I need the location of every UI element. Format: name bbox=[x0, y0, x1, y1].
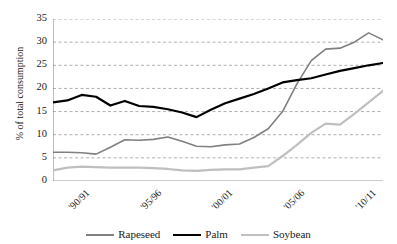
series-line-rapeseed bbox=[53, 33, 383, 154]
plot-svg bbox=[53, 19, 383, 181]
legend-label: Palm bbox=[205, 229, 228, 240]
legend-label: Rapeseed bbox=[118, 229, 160, 240]
y-tick-label: 0 bbox=[23, 174, 47, 185]
y-tick-label: 10 bbox=[23, 128, 47, 139]
y-tick-label: 25 bbox=[23, 58, 47, 69]
series-line-palm bbox=[53, 63, 383, 117]
x-tick-label: '05/06 bbox=[281, 187, 306, 212]
y-tick-label: 30 bbox=[23, 35, 47, 46]
line-chart: % of total consumption 05101520253035 '9… bbox=[0, 0, 397, 244]
plot-area bbox=[53, 19, 383, 181]
legend-item-rapeseed: Rapeseed bbox=[86, 229, 160, 240]
x-tick-label: '90/91 bbox=[66, 187, 91, 212]
x-tick-label: '00/01 bbox=[210, 187, 235, 212]
y-tick-label: 15 bbox=[23, 105, 47, 116]
legend-line-icon bbox=[173, 234, 201, 236]
y-tick-label: 5 bbox=[23, 151, 47, 162]
y-tick-label: 20 bbox=[23, 81, 47, 92]
legend-line-icon bbox=[241, 234, 269, 236]
legend-line-icon bbox=[86, 234, 114, 236]
legend-label: Soybean bbox=[273, 229, 311, 240]
y-tick-label: 35 bbox=[23, 12, 47, 23]
legend-item-soybean: Soybean bbox=[241, 229, 311, 240]
chart-legend: Rapeseed Palm Soybean bbox=[0, 229, 397, 240]
legend-item-palm: Palm bbox=[173, 229, 228, 240]
series-line-soybean bbox=[53, 91, 383, 171]
x-tick-label: '95/96 bbox=[138, 187, 163, 212]
x-tick-label: '10/11 bbox=[353, 187, 378, 212]
